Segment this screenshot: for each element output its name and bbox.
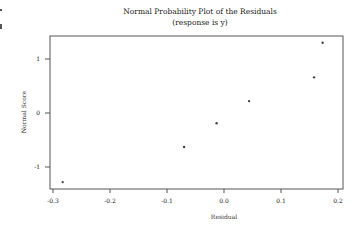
- y-tick-label: 1: [36, 55, 40, 62]
- y-axis-label: Normal Score: [20, 91, 27, 133]
- data-point: [183, 146, 185, 148]
- x-tick-label: -0.3: [47, 197, 59, 204]
- x-tick-label: 0.0: [219, 197, 229, 204]
- plot-border: [50, 36, 343, 189]
- x-tick-label: 0.2: [333, 197, 343, 204]
- data-point: [321, 42, 323, 44]
- y-tick-label: -1: [34, 163, 40, 170]
- x-tick-label: 0.1: [276, 197, 286, 204]
- data-point: [313, 76, 315, 78]
- data-point: [61, 181, 63, 183]
- x-tick-label: -0.2: [104, 197, 116, 204]
- x-axis-ticks: -0.3-0.2-0.10.00.10.2: [47, 189, 343, 204]
- data-point: [248, 100, 250, 102]
- x-tick-label: -0.1: [161, 197, 173, 204]
- axes-frame: [50, 36, 343, 189]
- data-point: [215, 122, 217, 124]
- y-tick-label: 0: [36, 109, 40, 116]
- x-axis-label: Residual: [211, 213, 237, 220]
- data-points: [61, 42, 323, 184]
- plot-area: -0.3-0.2-0.10.00.10.2 10-1: [0, 0, 362, 229]
- y-axis-ticks: 10-1: [34, 55, 50, 170]
